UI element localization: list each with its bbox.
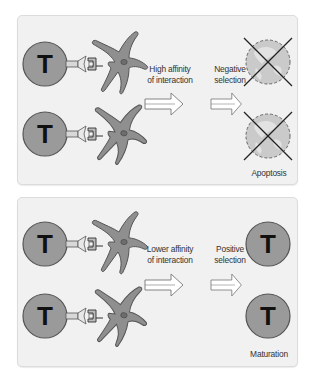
apoptotic-cell-2 [244,112,292,160]
outcome-label: Apoptosis [246,167,292,178]
mature-t-cell-1: T [246,222,290,266]
svg-text:T: T [37,301,53,331]
t-cell-1: T [23,222,67,266]
svg-text:T: T [37,119,53,149]
affinity-label: Lower affinity of interaction [142,243,198,265]
selection-label-line2: selection [209,74,251,85]
tcr-mhc-complex-2 [66,308,103,324]
affinity-label-line2: of interaction [142,254,198,265]
selection-arrow [211,93,241,115]
negative-selection-illustration: T T [18,16,297,184]
t-cell-1: T [23,42,67,86]
affinity-label-line1: Lower affinity [142,243,198,254]
svg-text:T: T [260,301,276,331]
selection-label-line2: selection [209,254,251,265]
selection-arrow [211,274,241,296]
positive-selection-illustration: T T T T [18,198,297,366]
affinity-arrow [145,93,183,115]
svg-text:T: T [37,49,53,79]
tcr-mhc-complex-1 [66,56,103,72]
t-cell-2: T [23,294,67,338]
affinity-label-line2: of interaction [142,74,198,85]
selection-label-line1: Positive [209,243,251,254]
selection-label: Negative selection [209,63,251,85]
dendritic-cell-1 [92,32,147,94]
tcr-mhc-complex-2 [66,126,103,142]
svg-text:T: T [260,229,276,259]
affinity-arrow [145,274,183,296]
selection-label-line1: Negative [209,63,251,74]
selection-label: Positive selection [209,243,251,265]
positive-selection-panel: T T T T Lower affinity of interaction Po… [17,197,298,367]
apoptotic-cell-1 [244,38,292,86]
negative-selection-panel: T T High affinity of interaction Negativ… [17,15,298,185]
dendritic-cell-2 [88,281,151,350]
dendritic-cell-2 [88,99,151,168]
affinity-label-line1: High affinity [142,63,198,74]
dendritic-cell-1 [92,212,147,274]
outcome-label: Maturation [245,348,293,359]
t-cell-2: T [23,112,67,156]
svg-text:T: T [37,229,53,259]
mature-t-cell-2: T [246,294,290,338]
affinity-label: High affinity of interaction [142,63,198,85]
tcr-mhc-complex-1 [66,236,103,252]
